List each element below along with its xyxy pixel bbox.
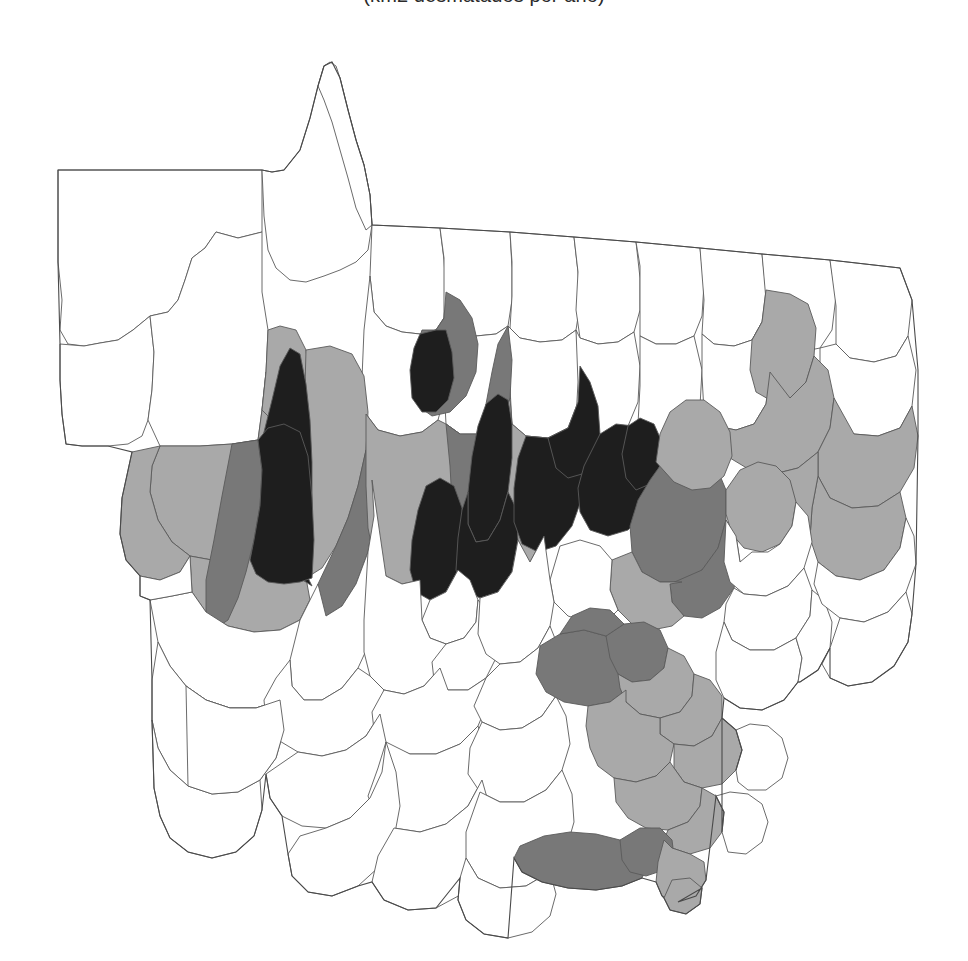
choropleth-figure: Taxa de desmatamento por municipio (km2 … (0, 0, 968, 961)
municipality-polygon (636, 242, 704, 344)
mato-grosso-municipality-map (0, 0, 968, 961)
municipality-polygon (510, 232, 580, 342)
municipality-polygon (700, 248, 766, 346)
municipality-polygon (830, 260, 912, 362)
municipality-polygon (574, 237, 640, 344)
municipality-polygon (736, 724, 788, 790)
municipality-polygon (370, 225, 446, 334)
map-canvas (0, 0, 968, 961)
municipality-layer (58, 62, 918, 938)
municipality-polygon (508, 326, 580, 438)
municipality-polygon (716, 792, 768, 854)
municipality-polygon (410, 330, 454, 412)
